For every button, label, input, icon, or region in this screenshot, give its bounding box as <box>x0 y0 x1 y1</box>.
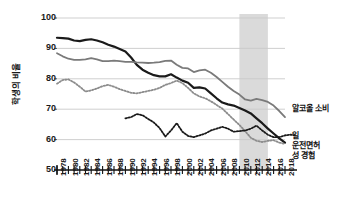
y-axis-tick-label-wrap: 60 <box>30 140 56 141</box>
x-axis-tick-label: 1996 <box>163 158 171 176</box>
x-axis-tick-label: 1978 <box>60 158 68 176</box>
highlight-band <box>239 14 268 170</box>
y-axis-tick-label: 60 <box>46 135 56 144</box>
x-axis-tick-label: 1990 <box>129 158 137 176</box>
x-axis-tick-label: 1984 <box>94 158 102 176</box>
chart-container: 학생의 비율 5060708090100 1978198019821984198… <box>0 0 349 216</box>
y-axis-tick-label: 80 <box>46 74 56 83</box>
y-axis-tick-label-wrap: 90 <box>30 48 56 49</box>
x-axis-tick-label: 2012 <box>254 158 262 176</box>
x-axis-tick-label: 1992 <box>140 158 148 176</box>
x-axis-tick-label: 2010 <box>243 158 251 176</box>
x-axis-tick-label: 2008 <box>231 158 239 176</box>
y-axis-tick-label: 100 <box>41 13 56 22</box>
x-axis-tick-label: 1998 <box>174 158 182 176</box>
x-axis-tick-label: 2014 <box>265 158 273 176</box>
x-axis-tick-label: 1994 <box>151 158 159 176</box>
x-axis-tick-label: 2006 <box>220 158 228 176</box>
y-axis-tick-label-wrap: 80 <box>30 79 56 80</box>
series-line-4 <box>125 114 296 137</box>
legend-label-2: 일 <box>292 131 299 141</box>
y-axis-tick-label: 70 <box>46 104 56 113</box>
x-axis-tick-label: 1986 <box>106 158 114 176</box>
x-axis-tick-label: 2002 <box>197 158 205 176</box>
legend-label-3: 운전면허 <box>292 141 320 151</box>
x-axis-tick-label: 1982 <box>83 158 91 176</box>
x-axis-tick-label: 2000 <box>186 158 194 176</box>
y-axis-tick-label: 90 <box>46 43 56 52</box>
y-axis-tick-label: 50 <box>46 165 56 174</box>
y-axis-tick-label-wrap: 70 <box>30 109 56 110</box>
x-axis-tick-label: 2004 <box>208 158 216 176</box>
x-axis-tick-label: 2018 <box>288 158 296 176</box>
legend-label-1: 알코올 소비 <box>292 104 329 114</box>
x-axis-tick-label: 1988 <box>117 158 125 176</box>
y-axis-tick-label-wrap: 50 <box>30 170 56 171</box>
y-axis-tick-label-wrap: 100 <box>30 18 56 19</box>
x-axis-tick-label: 2016 <box>277 158 285 176</box>
x-axis-tick-label: 1980 <box>72 158 80 176</box>
legend-label-4: 성 경험 <box>292 151 315 161</box>
